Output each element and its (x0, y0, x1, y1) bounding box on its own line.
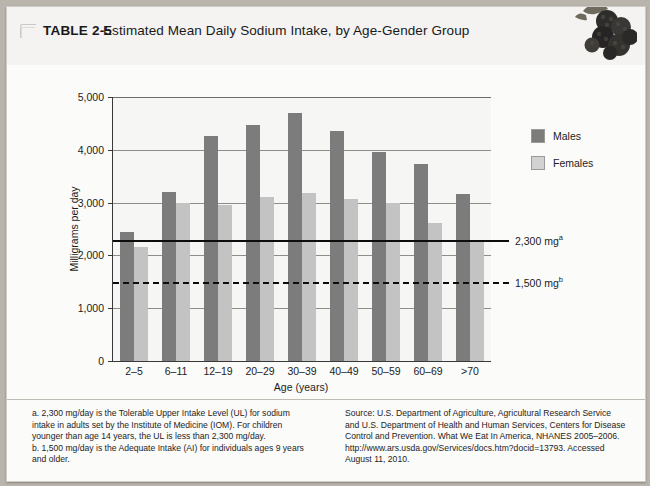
footnote-line: younger than age 14 years, the UL is les… (32, 431, 327, 443)
x-axis-tick-label: 20–29 (239, 365, 281, 377)
y-axis-tick-label: 5,000 (78, 91, 104, 103)
reference-line-label-superscript: b (559, 275, 563, 284)
bar-females (260, 197, 274, 361)
bar-males (246, 125, 260, 361)
x-axis-tick-label: 60–69 (407, 365, 449, 377)
source-line: Control and Prevention. What We Eat In A… (345, 431, 637, 443)
blackberries-photo (545, 6, 637, 67)
bar-females (428, 223, 442, 361)
chart-area: Milligrams per day 01,0002,0003,0004,000… (7, 65, 645, 395)
figure-notes: a. 2,300 mg/day is the Tolerable Upper I… (7, 399, 645, 482)
figure-header: TABLE 2-5 Estimated Mean Daily Sodium In… (7, 7, 645, 66)
reference-line-label-text: 2,300 mg (515, 234, 559, 246)
bar-group: 2–5 (113, 97, 155, 361)
x-axis-title: Age (years) (112, 381, 490, 393)
bar-females (344, 199, 358, 361)
chart-legend: Males Females (531, 129, 593, 183)
footnotes-block: a. 2,300 mg/day is the Tolerable Upper I… (32, 408, 327, 466)
reference-line-label-text: 1,500 mg (515, 277, 559, 289)
reference-line-dashed (113, 282, 509, 284)
figure-page: TABLE 2-5 Estimated Mean Daily Sodium In… (6, 6, 646, 482)
y-axis-tick-label: 0 (98, 355, 104, 367)
footnote-line: b. 1,500 mg/day is the Adequate Intake (… (32, 443, 327, 455)
bar-males (414, 164, 428, 361)
x-axis-tick-label: 12–19 (197, 365, 239, 377)
x-axis-tick-label: 50–59 (365, 365, 407, 377)
bar-males (120, 232, 134, 361)
reference-line-label: 1,500 mgb (515, 275, 563, 289)
x-axis-tick-label: >70 (449, 365, 491, 377)
page-title: Estimated Mean Daily Sodium Intake, by A… (103, 23, 469, 38)
bar-group: 20–29 (239, 97, 281, 361)
y-axis-title: Milligrams per day (67, 97, 81, 361)
y-axis-tick (108, 361, 113, 362)
reference-line-label-superscript: a (559, 233, 563, 242)
legend-item-males: Males (531, 129, 593, 143)
bar-males (162, 192, 176, 361)
legend-swatch-males-icon (531, 129, 545, 143)
x-axis-tick-label: 30–39 (281, 365, 323, 377)
source-line: http://www.ars.usda.gov/Services/docs.ht… (345, 443, 637, 455)
legend-swatch-females-icon (531, 156, 545, 170)
bar-group: 6–11 (155, 97, 197, 361)
footnote-line: a. 2,300 mg/day is the Tolerable Upper I… (32, 408, 327, 420)
y-axis-tick-label: 3,000 (78, 197, 104, 209)
bar-females (470, 240, 484, 361)
table-number-label: TABLE 2-5 (43, 23, 112, 38)
legend-label-males: Males (553, 130, 581, 142)
bar-males (288, 113, 302, 361)
y-axis-tick-label: 2,000 (78, 249, 104, 261)
bar-group: 30–39 (281, 97, 323, 361)
y-axis-tick-label: 4,000 (78, 144, 104, 156)
bar-males (330, 131, 344, 361)
bar-females (134, 247, 148, 361)
bar-group: 50–59 (365, 97, 407, 361)
bar-group: 60–69 (407, 97, 449, 361)
reference-line-label: 2,300 mga (515, 233, 563, 247)
y-axis-tick-label: 1,000 (78, 302, 104, 314)
bar-group: >70 (449, 97, 491, 361)
footnote-line: and older. (32, 454, 327, 466)
bar-group: 40–49 (323, 97, 365, 361)
reference-line-solid (113, 240, 509, 242)
footnote-line: intake in adults set by the Institute of… (32, 420, 327, 432)
x-axis-tick-label: 40–49 (323, 365, 365, 377)
x-axis-tick-label: 6–11 (155, 365, 197, 377)
plot-area: 01,0002,0003,0004,0005,000 2–56–1112–192… (112, 97, 491, 362)
source-line: August 11, 2010. (345, 454, 637, 466)
legend-item-females: Females (531, 156, 593, 170)
source-line: and U.S. Department of Health and Human … (345, 420, 637, 432)
table-corner-icon (19, 23, 37, 39)
bar-females (302, 193, 316, 361)
bar-males (204, 136, 218, 361)
bar-males (372, 152, 386, 361)
legend-label-females: Females (553, 157, 593, 169)
bar-males (456, 194, 470, 361)
source-line: Source: U.S. Department of Agriculture, … (345, 408, 637, 420)
x-axis-tick-label: 2–5 (113, 365, 155, 377)
source-block: Source: U.S. Department of Agriculture, … (345, 408, 637, 466)
bar-group: 12–19 (197, 97, 239, 361)
